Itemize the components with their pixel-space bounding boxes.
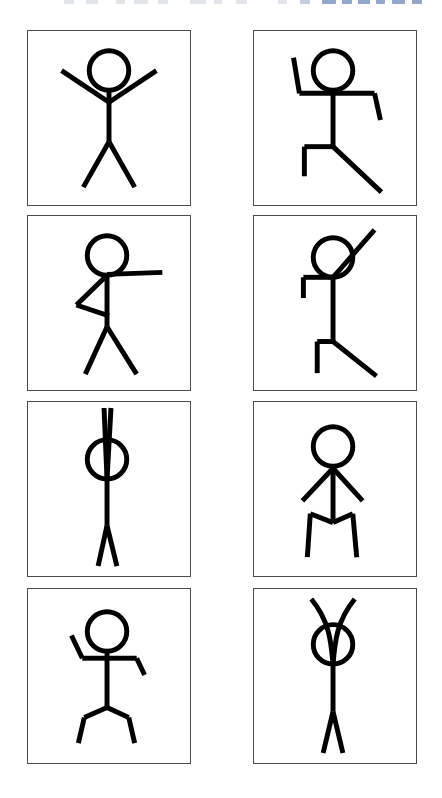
leg-right-segment bbox=[333, 147, 381, 192]
stick-figure-1 bbox=[28, 31, 190, 205]
arm-left-upper-segment bbox=[76, 275, 107, 305]
leg-left-segment bbox=[323, 712, 333, 753]
head-icon bbox=[313, 427, 353, 467]
leg-right-lower-segment bbox=[353, 514, 357, 557]
pose-panel-7: left arm bent up, right arm bent down, l… bbox=[27, 588, 191, 764]
arm-right-fore-segment bbox=[375, 93, 381, 120]
pose-panel-1: arms up in V, legs apart bbox=[27, 30, 191, 206]
arm-right-segment bbox=[107, 272, 162, 274]
arm-right-segment bbox=[107, 408, 111, 479]
pose-panel-4: right arm raised diagonally, left arm be… bbox=[253, 215, 417, 391]
leg-left-segment bbox=[98, 526, 107, 567]
leg-left-upper-segment bbox=[84, 708, 107, 718]
head-icon bbox=[89, 51, 129, 91]
pose-panel-5: both arms straight up meeting above head… bbox=[27, 401, 191, 577]
head-icon bbox=[87, 236, 127, 276]
arm-left-fore-segment bbox=[76, 305, 109, 316]
stick-figure-pose-grid: arms up in V, legs apartrunning: left ar… bbox=[0, 0, 442, 798]
leg-right-segment bbox=[333, 342, 376, 377]
arm-left-fore-segment bbox=[294, 58, 300, 94]
leg-right-upper-segment bbox=[107, 708, 129, 718]
leg-right-lower-segment bbox=[129, 717, 135, 743]
arm-left-fore-segment bbox=[71, 636, 82, 659]
pose-panel-8: arms raised crossing in X above head, le… bbox=[253, 588, 417, 764]
leg-right-segment bbox=[107, 327, 137, 374]
stick-figure-6 bbox=[254, 402, 416, 576]
leg-right-segment bbox=[107, 526, 117, 567]
arm-right-segment bbox=[333, 468, 363, 501]
stick-figure-3 bbox=[28, 216, 190, 390]
stick-figure-4 bbox=[254, 216, 416, 390]
head-icon bbox=[313, 51, 353, 91]
stick-figure-2 bbox=[254, 31, 416, 205]
leg-right-upper-segment bbox=[333, 514, 353, 523]
leg-left-lower-segment bbox=[307, 514, 310, 557]
head-icon bbox=[87, 612, 127, 652]
arm-right-fore-segment bbox=[137, 658, 145, 675]
stick-figure-5 bbox=[28, 402, 190, 576]
leg-right-segment bbox=[109, 142, 135, 187]
leg-left-lower-segment bbox=[78, 717, 84, 743]
pose-panel-2: running: left arm up-bent, right arm dow… bbox=[253, 30, 417, 206]
leg-left-upper-segment bbox=[310, 514, 333, 523]
arm-left-segment bbox=[302, 468, 333, 501]
pose-panel-3: right arm straight out, left arm bent in… bbox=[27, 215, 191, 391]
head-icon bbox=[313, 238, 353, 278]
stick-figure-8 bbox=[254, 589, 416, 763]
leg-left-segment bbox=[83, 142, 109, 187]
leg-left-segment bbox=[85, 327, 107, 374]
stick-figure-7 bbox=[28, 589, 190, 763]
leg-right-segment bbox=[333, 712, 343, 753]
pose-panel-6: arms angled down and out, legs bent form… bbox=[253, 401, 417, 577]
